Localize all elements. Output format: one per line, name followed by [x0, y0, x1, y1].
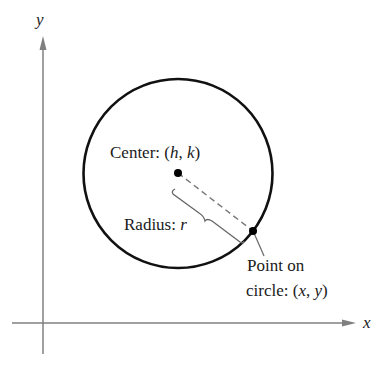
center-sep: , [178, 143, 187, 162]
y-axis-label: y [36, 10, 44, 30]
point-leader-line [254, 233, 264, 256]
radius-label-prefix: Radius: [124, 215, 180, 234]
center-k: k [187, 143, 195, 162]
point-label-suffix: ) [322, 281, 328, 300]
x-axis-arrow-icon [342, 320, 356, 327]
center-label: Center: (h, k) [110, 143, 200, 163]
circle-diagram [0, 0, 378, 375]
center-point [174, 169, 182, 177]
y-axis-arrow-icon [40, 36, 47, 50]
point-label-prefix: circle: ( [246, 281, 298, 300]
radius-label: Radius: r [124, 215, 187, 235]
circle-point [249, 227, 257, 235]
point-label-line2: circle: (x, y) [246, 281, 328, 301]
point-x: x [298, 281, 306, 300]
point-label-line1: Point on [247, 256, 304, 276]
center-label-suffix: ) [195, 143, 201, 162]
radius-dashed-line [178, 173, 253, 231]
point-y: y [314, 281, 322, 300]
x-axis-label: x [363, 313, 371, 333]
center-label-prefix: Center: ( [110, 143, 170, 162]
radius-r: r [180, 215, 187, 234]
